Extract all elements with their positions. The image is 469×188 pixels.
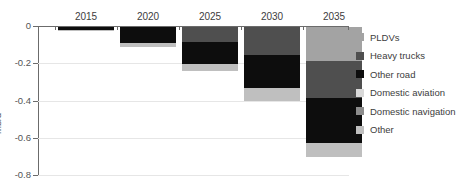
y-tick-label: -0.4 — [0, 95, 31, 106]
legend-swatch-icon — [356, 107, 364, 115]
bar-segment[interactable] — [182, 42, 238, 64]
bar-group-2030[interactable] — [244, 27, 300, 176]
bar-segment[interactable] — [244, 55, 300, 89]
bar-segment[interactable] — [120, 27, 176, 43]
plot-area — [38, 26, 349, 175]
legend-item[interactable]: Domestic navigation — [356, 102, 468, 121]
chart-legend: PLDVsHeavy trucksOther roadDomestic avia… — [356, 28, 468, 139]
x-axis-label: 2035 — [306, 11, 362, 22]
y-tick-label: -0.8 — [0, 169, 31, 180]
y-tick-mark — [33, 138, 38, 139]
x-tick-mark — [241, 26, 242, 30]
legend-swatch-icon — [356, 52, 364, 60]
bar-group-2025[interactable] — [182, 27, 238, 176]
legend-item-label: Domestic aviation — [370, 88, 445, 98]
legend-swatch-icon — [356, 126, 364, 134]
legend-item[interactable]: Heavy trucks — [356, 47, 468, 66]
bar-segment[interactable] — [182, 64, 238, 71]
bar-segment[interactable] — [306, 98, 362, 144]
legend-item[interactable]: Other — [356, 121, 468, 140]
x-tick-mark — [179, 26, 180, 30]
bar-segment[interactable] — [244, 88, 300, 100]
legend-swatch-icon — [356, 33, 364, 41]
legend-item-label: Heavy trucks — [370, 51, 425, 61]
legend-swatch-icon — [356, 70, 364, 78]
y-tick-mark — [33, 101, 38, 102]
bar-group-2020[interactable] — [120, 27, 176, 176]
y-tick-label: 0 — [0, 20, 31, 31]
y-tick-label: -0.2 — [0, 57, 31, 68]
legend-item[interactable]: PLDVs — [356, 28, 468, 47]
legend-item-label: Other — [370, 125, 394, 135]
x-tick-mark — [117, 26, 118, 30]
x-axis-label: 2020 — [120, 11, 176, 22]
bar-segment[interactable] — [306, 143, 362, 157]
bar-segment[interactable] — [306, 27, 362, 61]
chart-title — [104, 0, 464, 2]
legend-swatch-icon — [356, 89, 364, 97]
legend-item-label: Domestic navigation — [370, 107, 456, 117]
x-axis-label: 2025 — [182, 11, 238, 22]
legend-item-label: Other road — [370, 70, 415, 80]
legend-item[interactable]: Domestic aviation — [356, 84, 468, 103]
x-tick-mark — [348, 26, 349, 30]
y-tick-label: -0.6 — [0, 132, 31, 143]
y-tick-mark — [33, 175, 38, 176]
bar-segment[interactable] — [120, 43, 176, 47]
x-tick-mark — [55, 26, 56, 30]
bar-group-2015[interactable] — [58, 27, 114, 176]
bar-segment[interactable] — [244, 27, 300, 55]
legend-item[interactable]: Other road — [356, 65, 468, 84]
bar-segment[interactable] — [306, 61, 362, 98]
x-axis-label: 2030 — [244, 11, 300, 22]
bar-segment[interactable] — [182, 27, 238, 42]
legend-item-label: PLDVs — [370, 33, 400, 43]
y-tick-mark — [33, 63, 38, 64]
y-tick-mark — [33, 26, 38, 27]
x-tick-mark — [303, 26, 304, 30]
x-axis-label: 2015 — [58, 11, 114, 22]
bar-group-2035[interactable] — [306, 27, 362, 176]
